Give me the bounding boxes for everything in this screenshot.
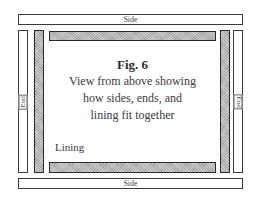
side-bottom-label: Side — [123, 180, 137, 188]
end-left-label: End — [19, 94, 28, 109]
figure-title: Fig. 6 — [49, 57, 216, 73]
side-board-top: Side — [18, 14, 243, 25]
side-top-label: Side — [123, 16, 137, 24]
figure-description-line-2: how sides, ends, and — [49, 90, 216, 107]
figure-caption: Fig. 6 View from above showing how sides… — [49, 57, 216, 124]
end-board-right: End — [233, 30, 243, 173]
box-construction-diagram: Side End End Fig. 6 View from above show… — [0, 0, 257, 201]
end-board-left: End — [18, 30, 28, 173]
end-right-label: End — [234, 94, 243, 109]
lining-strip-right — [220, 30, 230, 173]
lining-strip-top — [49, 31, 216, 41]
lining-strip-bottom — [49, 162, 216, 173]
lining-strip-left — [34, 30, 44, 173]
side-board-bottom: Side — [18, 178, 243, 189]
figure-description-line-1: View from above showing — [49, 73, 216, 90]
figure-description-line-3: lining fit together — [49, 107, 216, 124]
lining-label: Lining — [55, 141, 84, 153]
